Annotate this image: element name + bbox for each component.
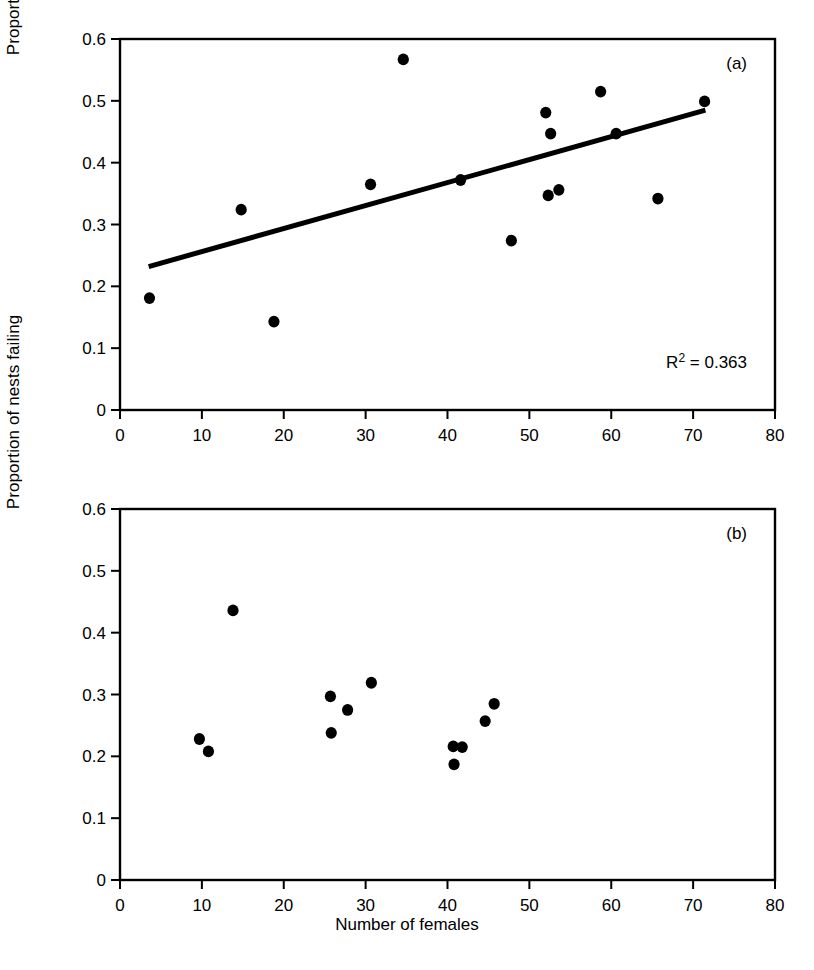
x-tick-label: 20 [274,426,293,445]
data-point [448,758,459,770]
data-point [326,727,337,739]
panel-tag: (b) [726,524,747,543]
data-point [506,235,517,247]
plot-frame [120,509,775,880]
y-tick-label: 0.1 [82,339,106,358]
data-point [227,605,238,617]
y-tick-label: 0.4 [82,154,106,173]
data-point [455,174,466,186]
data-point [489,698,500,710]
x-tick-label: 0 [115,426,124,445]
regression-trendline [149,110,706,266]
plot-area-b: 00.10.20.30.40.50.601020304050607080(b) [0,470,814,940]
data-point [342,704,353,716]
y-tick-label: 0.6 [82,500,106,519]
x-tick-label: 40 [438,896,457,915]
y-tick-label: 0.3 [82,216,106,235]
data-point [203,745,214,757]
y-tick-label: 0.4 [82,624,106,643]
data-point [268,316,279,328]
x-tick-label: 70 [684,896,703,915]
y-tick-label: 0.2 [82,747,106,766]
data-point [699,96,710,108]
panel-tag: (a) [726,54,747,73]
y-tick-label: 0.1 [82,809,106,828]
x-tick-label: 80 [766,896,785,915]
x-tick-label: 10 [192,896,211,915]
x-tick-label: 10 [192,426,211,445]
data-point [480,715,491,727]
x-tick-label: 50 [520,896,539,915]
x-tick-label: 70 [684,426,703,445]
data-point [365,178,376,190]
data-point [457,741,468,753]
plot-area-a: 00.10.20.30.40.50.601020304050607080(a)R… [0,0,814,470]
data-point [325,690,336,702]
x-tick-label: 20 [274,896,293,915]
data-point [540,107,551,119]
data-point [595,86,606,98]
data-point [545,128,556,140]
data-point [144,292,155,304]
y-tick-label: 0.5 [82,562,106,581]
y-tick-label: 0.6 [82,30,106,49]
x-tick-label: 80 [766,426,785,445]
y-tick-label: 0 [97,401,106,420]
data-point [194,733,205,745]
panel-b: Proportion of nests failing 00.10.20.30.… [0,470,814,940]
x-tick-label: 60 [602,896,621,915]
x-tick-label: 60 [602,426,621,445]
data-point [398,54,409,66]
x-tick-label: 0 [115,896,124,915]
r-squared-annotation: R2 = 0.363 [666,351,747,372]
data-point [553,184,564,196]
data-point [652,193,663,205]
x-tick-label: 50 [520,426,539,445]
x-tick-label: 30 [356,896,375,915]
y-tick-label: 0.3 [82,686,106,705]
data-point [236,204,247,216]
y-tick-label: 0 [97,871,106,890]
figure-scatter-nest-failure: Proportion of nests failing 00.10.20.30.… [0,0,814,970]
data-point [366,677,377,689]
data-point [543,190,554,202]
x-tick-label: 30 [356,426,375,445]
y-tick-label: 0.2 [82,277,106,296]
y-tick-label: 0.5 [82,92,106,111]
x-axis-title: Number of females [0,915,814,935]
data-point [611,128,622,140]
x-tick-label: 40 [438,426,457,445]
panel-a: Proportion of nests failing 00.10.20.30.… [0,0,814,470]
